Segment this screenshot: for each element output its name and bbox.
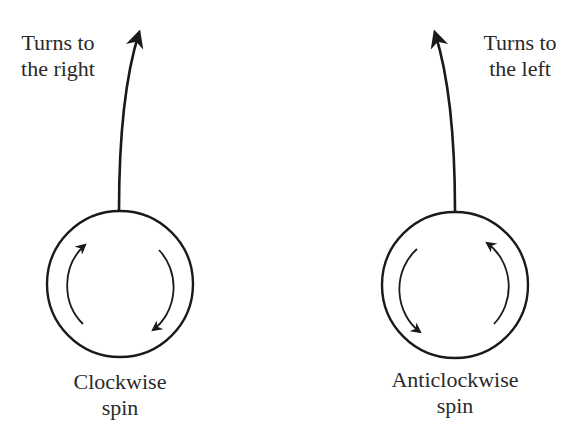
spin-arc-left-down-icon [399,249,420,332]
clockwise-line-1: Clockwise [55,369,185,395]
trajectory-left-arrow-icon [435,33,455,211]
clockwise-spin-label: Clockwise spin [55,369,185,421]
spin-arc-right-down-icon [153,250,174,330]
spin-diagram: Turns to the right Turns to the left Clo… [0,0,582,437]
turns-right-line-1: Turns to [8,30,108,56]
anticlockwise-line-2: spin [380,393,530,419]
turns-left-line-1: Turns to [470,30,570,56]
turns-left-label: Turns to the left [470,30,570,82]
spin-arc-right-up-icon [487,243,509,324]
trajectory-right-arrow-icon [119,33,139,211]
clockwise-line-2: spin [55,395,185,421]
ball-clockwise-icon [47,211,193,357]
anticlockwise-spin-label: Anticlockwise spin [380,367,530,419]
anticlockwise-line-1: Anticlockwise [380,367,530,393]
spin-arc-left-up-icon [67,245,85,324]
turns-right-line-2: the right [8,56,108,82]
ball-anticlockwise-icon [382,212,528,358]
turns-right-label: Turns to the right [8,30,108,82]
turns-left-line-2: the left [470,56,570,82]
